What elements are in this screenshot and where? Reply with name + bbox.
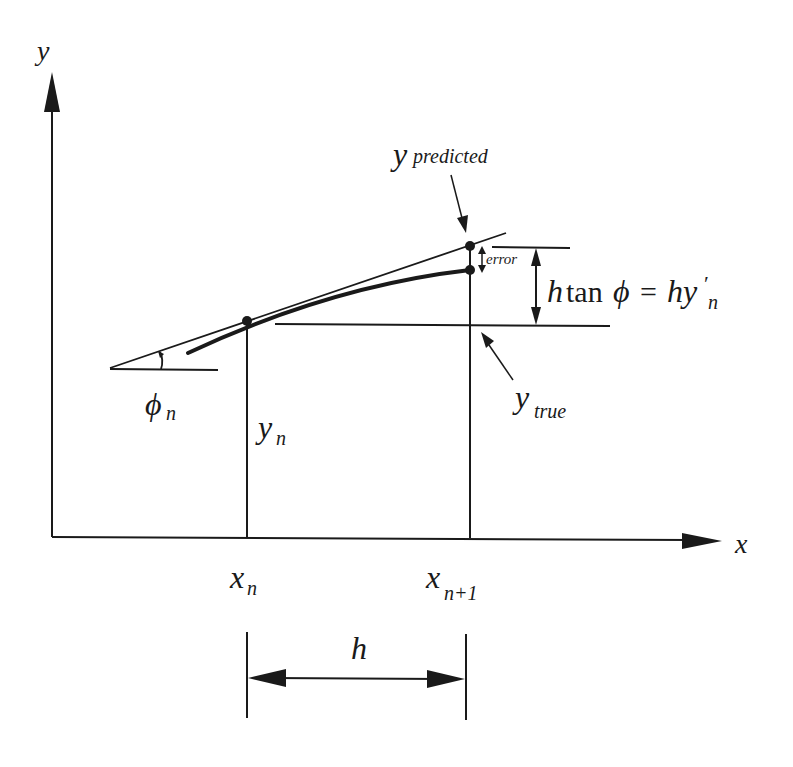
- svg-text:n: n: [276, 427, 286, 449]
- y-predicted-label: y predicted: [390, 136, 489, 172]
- yn-label: y n: [255, 409, 286, 449]
- svg-text:y: y: [390, 136, 408, 172]
- svg-text:tan: tan: [566, 275, 603, 308]
- svg-text:ϕ: ϕ: [613, 273, 630, 309]
- x-axis-label: x: [734, 528, 748, 559]
- xn-label: x n: [229, 559, 257, 599]
- angle-base-line: [110, 369, 218, 370]
- increment-formula: h tan ϕ = hy ′ n: [547, 271, 718, 313]
- step-arrow-right-icon: [427, 670, 465, 688]
- y-axis-label: y: [34, 35, 50, 66]
- svg-text:y: y: [255, 409, 273, 445]
- error-label: error: [486, 251, 517, 267]
- point-predicted: [465, 241, 475, 251]
- x-axis-arrow-icon: [682, 533, 722, 549]
- phi-n-label: ϕ n: [145, 386, 176, 424]
- predicted-pointer-line: [451, 175, 463, 222]
- svg-text:x: x: [425, 559, 440, 595]
- svg-text:h: h: [547, 273, 563, 309]
- increment-arrow-down-icon: [531, 307, 541, 325]
- point-true: [465, 265, 475, 275]
- point-xn-yn: [242, 316, 252, 326]
- svg-text:=: =: [640, 275, 657, 308]
- svg-text:n: n: [166, 402, 176, 424]
- y-true-label: y true: [512, 379, 566, 422]
- tangent-line: [110, 233, 506, 368]
- xn1-label: x n+1: [425, 559, 478, 604]
- yn-horizontal-line: [275, 324, 610, 326]
- svg-text:y: y: [512, 379, 530, 415]
- y-axis: [44, 72, 60, 537]
- true-solution-curve: [188, 270, 470, 353]
- increment-arrow-up-icon: [531, 248, 541, 266]
- step-size-dimension: h: [247, 630, 466, 720]
- step-size-label: h: [351, 630, 367, 666]
- error-arrow-up-icon: [478, 246, 486, 254]
- svg-text:x: x: [229, 559, 244, 595]
- svg-text:ϕ: ϕ: [145, 386, 162, 422]
- true-pointer-arrow-icon: [481, 332, 494, 348]
- y-axis-arrow-icon: [44, 72, 60, 112]
- svg-text:true: true: [534, 400, 566, 422]
- step-arrow-left-icon: [248, 669, 286, 687]
- svg-text:n+1: n+1: [444, 582, 478, 604]
- predicted-pointer-arrow-icon: [457, 215, 468, 233]
- svg-text:predicted: predicted: [411, 145, 489, 168]
- svg-text:n: n: [247, 577, 257, 599]
- svg-text:hy: hy: [667, 273, 698, 309]
- error-arrow-down-icon: [478, 265, 486, 273]
- svg-text:n: n: [708, 291, 718, 313]
- euler-method-diagram: y x error h tan ϕ = hy ′ n y predicted: [0, 0, 793, 767]
- true-pointer-line: [489, 345, 513, 380]
- x-axis: [52, 533, 722, 549]
- predicted-horizontal-line: [492, 247, 570, 248]
